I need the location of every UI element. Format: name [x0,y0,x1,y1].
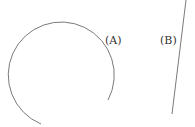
arc-a [8,22,114,124]
label-b: (B) [160,35,177,46]
line-b [172,0,186,114]
diagram-canvas [0,0,195,127]
label-a: (A) [105,35,122,46]
